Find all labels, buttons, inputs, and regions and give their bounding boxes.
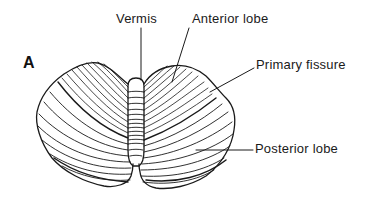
panel-label: A (23, 55, 35, 71)
primary-fissure-label: Primary fissure (256, 58, 346, 72)
primary-fissure-leader-line (210, 68, 254, 92)
posterior-lobe-label: Posterior lobe (255, 142, 338, 156)
anterior-lobe-label: Anterior lobe (192, 12, 268, 26)
vermis-folia (128, 91, 144, 156)
cerebellum-diagram: A Vermis Anterior lobe Primary fissure P… (0, 0, 378, 209)
vermis-label: Vermis (116, 12, 157, 26)
cerebellum-drawing (0, 0, 378, 209)
left-posterior-folia (38, 92, 131, 180)
right-primary-fissure (144, 98, 216, 140)
